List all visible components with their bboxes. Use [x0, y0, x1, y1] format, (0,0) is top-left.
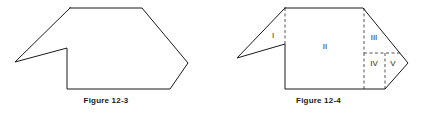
- figure-12-4-drawing: I II III IV V: [212, 0, 425, 95]
- figure-12-3-caption: Figure 12-3: [0, 96, 212, 105]
- figure-12-3-block: Figure 12-3: [0, 0, 212, 115]
- figure-12-4-caption: Figure 12-4: [212, 96, 425, 105]
- figure-12-4-block: I II III IV V Figure 12-4: [212, 0, 425, 115]
- region-label-ii: II: [323, 42, 327, 51]
- region-label-v: V: [390, 59, 396, 68]
- figure-page: Figure 12-3 I II III IV V Figure 12-4: [0, 0, 425, 115]
- region-label-i: I: [272, 31, 274, 40]
- region-label-iii: III: [371, 33, 378, 42]
- figure-12-3-outline: [15, 8, 188, 89]
- figure-12-3-drawing: [0, 0, 212, 95]
- region-label-iv: IV: [370, 59, 378, 68]
